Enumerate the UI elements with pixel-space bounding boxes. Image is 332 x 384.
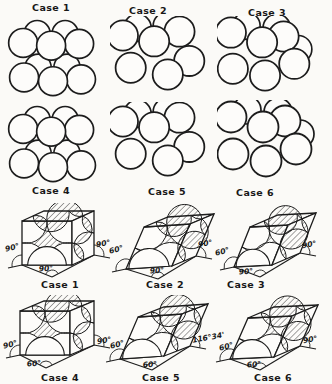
case-5-base-angle-label: 60° <box>142 359 157 369</box>
sphere-cluster-case-5-drawing <box>110 102 208 182</box>
case-5-spheres-label: Case 5 <box>148 186 186 197</box>
case-2-base-angle-label: 90° <box>149 265 164 275</box>
sphere-cluster-case-3-drawing <box>217 16 315 96</box>
case-5-cell-caption: Case 5 <box>142 372 180 383</box>
sphere-cluster-case-4-drawing <box>4 100 102 184</box>
case-1-cell-caption: Case 1 <box>41 279 79 290</box>
sphere-cluster-case-6-drawing <box>217 100 317 182</box>
figure-canvas: Case 1 Case 2 Case 3 Case 4 Case 5 Case … <box>0 0 332 384</box>
sphere-cluster-case-1-drawing <box>4 14 102 98</box>
case-3-cell-caption: Case 3 <box>227 279 265 290</box>
case-6-cell-caption: Case 6 <box>254 372 292 383</box>
case-4-base-angle-label: 60° <box>26 358 41 368</box>
case-4-spheres-label: Case 4 <box>32 185 70 196</box>
case-2-spheres-label: Case 2 <box>129 5 167 16</box>
case-3-base-angle-label: 90° <box>238 266 253 276</box>
case-2-cell-caption: Case 2 <box>146 279 184 290</box>
case-1-base-angle-label: 90° <box>38 263 53 273</box>
sphere-cluster-case-2-drawing <box>110 16 208 96</box>
case-4-cell-caption: Case 4 <box>41 372 79 383</box>
case-6-spheres-label: Case 6 <box>236 187 274 198</box>
case-6-base-angle-label: 60° <box>246 359 261 369</box>
case-1-spheres-label: Case 1 <box>32 2 70 13</box>
